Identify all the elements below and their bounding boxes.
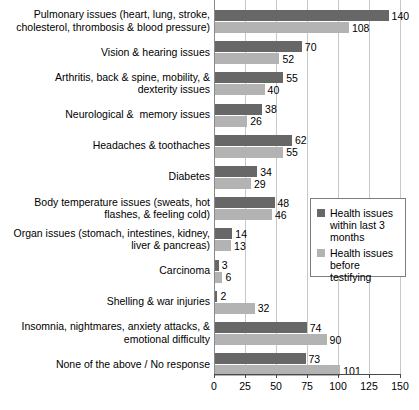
bar-chart: Pulmonary issues (heart, lung, stroke, c… bbox=[0, 0, 419, 410]
bar-value-label: 6 bbox=[225, 272, 231, 283]
x-tick-50 bbox=[276, 374, 277, 378]
category-label: Diabetes bbox=[2, 170, 210, 182]
bar bbox=[215, 272, 222, 283]
x-tick-label: 150 bbox=[391, 380, 409, 392]
bar-value-label: 2 bbox=[220, 291, 226, 302]
bar bbox=[215, 104, 262, 115]
bar-value-label: 55 bbox=[286, 73, 298, 84]
bar bbox=[215, 22, 349, 33]
bar-value-label: 38 bbox=[265, 104, 277, 115]
bar bbox=[215, 197, 275, 208]
x-tick-150 bbox=[400, 374, 401, 378]
category-label: Pulmonary issues (heart, lung, stroke, c… bbox=[2, 8, 210, 32]
x-tick-75 bbox=[307, 374, 308, 378]
category-label: Vision & hearing issues bbox=[2, 46, 210, 58]
category-label: None of the above / No response bbox=[2, 358, 210, 370]
chart-legend: Health issues within last 3 monthsHealth… bbox=[310, 198, 406, 277]
bar-value-label: 34 bbox=[260, 167, 272, 178]
bar-value-label: 140 bbox=[392, 11, 410, 22]
category-label: Carcinoma bbox=[2, 264, 210, 276]
gridline-150 bbox=[400, 0, 401, 374]
bar bbox=[215, 353, 306, 364]
bar bbox=[215, 10, 389, 21]
category-label: Insomnia, nightmares, anxiety attacks, &… bbox=[2, 320, 210, 344]
bar-value-label: 108 bbox=[352, 23, 370, 34]
bar bbox=[215, 84, 265, 95]
category-label: Headaches & toothaches bbox=[2, 139, 210, 151]
bar-value-label: 3 bbox=[222, 260, 228, 271]
bar bbox=[215, 116, 247, 127]
bar bbox=[215, 228, 232, 239]
legend-swatch-icon bbox=[317, 249, 325, 257]
bar bbox=[215, 166, 257, 177]
category-label: Shelling & war injuries bbox=[2, 295, 210, 307]
bar bbox=[215, 135, 292, 146]
legend-swatch-icon bbox=[317, 209, 325, 217]
bar bbox=[215, 72, 283, 83]
bar bbox=[215, 209, 272, 220]
category-label: Arthritis, back & spine, mobility, & dex… bbox=[2, 71, 210, 95]
gridline-100 bbox=[338, 0, 339, 374]
bar-value-label: 73 bbox=[309, 354, 321, 365]
category-label-column: Pulmonary issues (heart, lung, stroke, c… bbox=[0, 0, 210, 374]
bar bbox=[215, 322, 307, 333]
bar-value-label: 46 bbox=[275, 210, 287, 221]
bar-value-label: 62 bbox=[295, 135, 307, 146]
bar-value-label: 48 bbox=[278, 198, 290, 209]
bar bbox=[215, 303, 255, 314]
gridline-125 bbox=[369, 0, 370, 374]
bar-value-label: 55 bbox=[286, 147, 298, 158]
bar-value-label: 29 bbox=[254, 179, 266, 190]
x-tick-label: 125 bbox=[360, 380, 378, 392]
bar-value-label: 90 bbox=[330, 335, 342, 346]
x-tick-25 bbox=[245, 374, 246, 378]
bar bbox=[215, 260, 219, 271]
bar bbox=[215, 291, 217, 302]
legend-entry: Health issues within last 3 months bbox=[317, 207, 404, 244]
legend-entry: Health issues before testifying bbox=[317, 247, 404, 284]
bar bbox=[215, 41, 302, 52]
bar-value-label: 32 bbox=[258, 303, 270, 314]
bar-value-label: 26 bbox=[250, 116, 262, 127]
x-axis: 0255075100125150 bbox=[214, 374, 400, 376]
bar bbox=[215, 147, 283, 158]
x-tick-label: 75 bbox=[301, 380, 313, 392]
bar-value-label: 40 bbox=[268, 85, 280, 96]
bar bbox=[215, 334, 327, 345]
x-tick-label: 50 bbox=[270, 380, 282, 392]
legend-label: Health issues within last 3 months bbox=[330, 207, 404, 244]
x-tick-label: 25 bbox=[239, 380, 251, 392]
bar-value-label: 52 bbox=[282, 54, 294, 65]
bar bbox=[215, 178, 251, 189]
x-tick-125 bbox=[369, 374, 370, 378]
category-label: Organ issues (stomach, intestines, kidne… bbox=[2, 227, 210, 251]
bar bbox=[215, 53, 279, 64]
legend-label: Health issues before testifying bbox=[330, 247, 404, 284]
gridline-75 bbox=[307, 0, 308, 374]
bar-value-label: 13 bbox=[234, 241, 246, 252]
x-tick-label: 0 bbox=[211, 380, 217, 392]
bar-value-label: 74 bbox=[310, 323, 322, 334]
category-label: Body temperature issues (sweats, hot fla… bbox=[2, 196, 210, 220]
category-label: Neurological & memory issues bbox=[2, 108, 210, 120]
x-tick-label: 100 bbox=[329, 380, 347, 392]
bar-value-label: 70 bbox=[305, 42, 317, 53]
bar-value-label: 14 bbox=[235, 229, 247, 240]
plot-area: 1401087052554038266255342948461413362327… bbox=[214, 0, 400, 374]
x-tick-100 bbox=[338, 374, 339, 378]
bar bbox=[215, 240, 231, 251]
x-tick-0 bbox=[214, 374, 215, 378]
